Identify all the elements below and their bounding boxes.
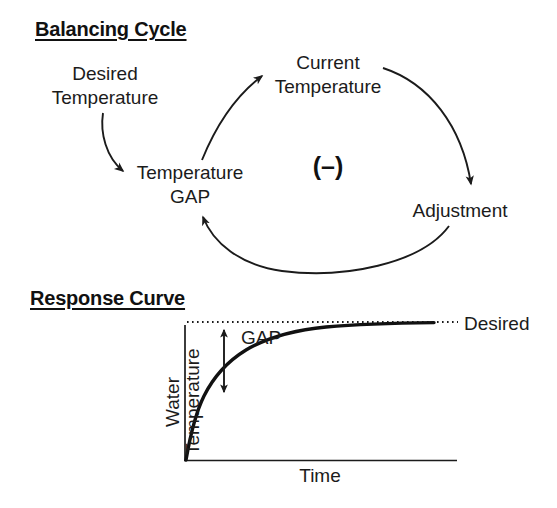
chart-x-axis-label: Time bbox=[299, 465, 341, 487]
chart-y-axis-label-line1: Water bbox=[162, 377, 184, 427]
chart-y-axis-label-line2: Temperature bbox=[182, 348, 204, 455]
desired-line-label: Desired bbox=[464, 313, 529, 335]
diagram-canvas: Balancing Cycle Response Curve Desired T… bbox=[0, 0, 557, 508]
response-curve-chart bbox=[0, 0, 557, 508]
gap-annotation-label: GAP bbox=[241, 327, 281, 349]
